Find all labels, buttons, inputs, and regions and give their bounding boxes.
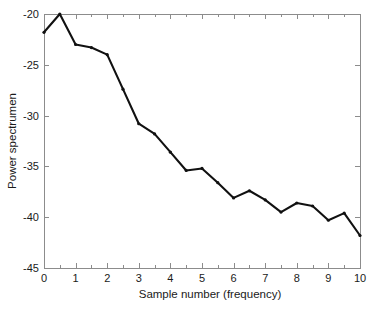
data-point — [358, 234, 361, 237]
y-tick-label: -45 — [23, 262, 39, 274]
x-tick-label: 8 — [294, 272, 300, 284]
data-series-group — [42, 12, 361, 237]
power-spectrum-chart: 012345678910 -45-40-35-30-25-20 Sample n… — [0, 0, 376, 312]
x-tick-label: 0 — [41, 272, 47, 284]
y-axis-tick-labels: -45-40-35-30-25-20 — [23, 8, 39, 274]
data-point — [106, 53, 109, 56]
y-tick-label: -25 — [23, 59, 39, 71]
y-tick-label: -35 — [23, 160, 39, 172]
x-tick-label: 3 — [136, 272, 142, 284]
x-tick-label: 1 — [73, 272, 79, 284]
x-tick-label: 6 — [231, 272, 237, 284]
y-tick-label: -30 — [23, 110, 39, 122]
axes-frame-rect — [45, 15, 361, 269]
x-axis-tick-labels: 012345678910 — [41, 272, 366, 284]
y-tick-label: -20 — [23, 8, 39, 20]
x-tick-label: 5 — [199, 272, 205, 284]
data-point — [200, 167, 203, 170]
data-point — [343, 212, 346, 215]
y-tick-label: -40 — [23, 211, 39, 223]
data-point — [232, 196, 235, 199]
x-axis-ticks — [45, 14, 361, 268]
x-tick-label: 10 — [354, 272, 366, 284]
data-point — [327, 219, 330, 222]
data-point — [311, 204, 314, 207]
data-point — [216, 181, 219, 184]
figure-container: 012345678910 -45-40-35-30-25-20 Sample n… — [0, 0, 376, 312]
data-point — [74, 43, 77, 46]
data-point — [42, 31, 45, 34]
x-tick-label: 4 — [167, 272, 173, 284]
data-point — [185, 169, 188, 172]
y-axis-label: Power spectrumen — [6, 93, 18, 189]
data-point — [169, 151, 172, 154]
data-point — [121, 88, 124, 91]
data-point — [248, 189, 251, 192]
x-axis-label: Sample number (frequency) — [139, 288, 282, 300]
data-point — [264, 198, 267, 201]
x-tick-label: 9 — [325, 272, 331, 284]
data-point — [137, 122, 140, 125]
data-point — [153, 132, 156, 135]
y-axis-ticks — [44, 15, 360, 269]
x-tick-label: 7 — [262, 272, 268, 284]
data-point — [58, 12, 61, 15]
data-point — [295, 201, 298, 204]
axes-frame — [45, 15, 361, 269]
data-point — [90, 46, 93, 49]
data-point — [279, 211, 282, 214]
x-tick-label: 2 — [104, 272, 110, 284]
